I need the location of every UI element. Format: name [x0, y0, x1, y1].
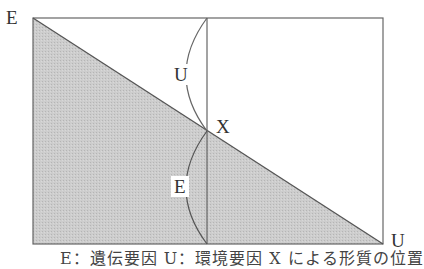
label-top-left-e: E	[6, 8, 18, 27]
figure-caption: E：遺伝要因 U：環境要因 X による形質の位置	[60, 245, 424, 269]
label-lower-arc-e: E	[171, 176, 189, 197]
label-upper-arc-u: U	[171, 64, 191, 85]
label-intersection-x: X	[216, 117, 230, 136]
